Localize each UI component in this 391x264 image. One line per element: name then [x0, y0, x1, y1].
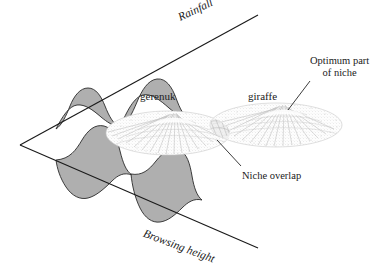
annotation-optimum-line2: of niche [310, 67, 369, 79]
species-label-gerenuk: gerenuk [140, 90, 175, 102]
annotation-optimum-part-of-niche: Optimum partof niche [310, 55, 369, 79]
browsing-height-axis-line [20, 145, 258, 248]
annotation-optimum-line1: Optimum part [310, 55, 369, 66]
leader-line-niche-overlap [217, 140, 241, 166]
niche-overlap-diagram [0, 0, 391, 264]
niche-blob-giraffe [210, 103, 342, 147]
niche-blob-gerenuk [106, 111, 230, 155]
annotation-niche-overlap: Niche overlap [242, 170, 301, 182]
browsing-curve-giraffe [131, 149, 202, 222]
species-label-giraffe: giraffe [248, 90, 277, 102]
